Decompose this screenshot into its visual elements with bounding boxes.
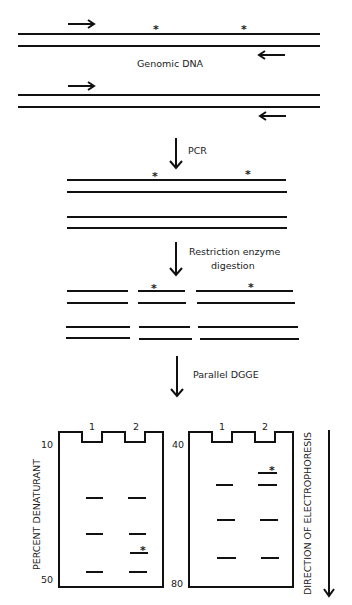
dgge-label: Parallel DGGE <box>193 370 259 380</box>
mutation-marker: * <box>248 282 254 293</box>
gel-left-bottom-percent: 50 <box>41 575 53 585</box>
gel-left-outline <box>59 432 163 587</box>
mutation-marker: * <box>153 24 159 35</box>
gel-left-top-percent: 10 <box>41 440 53 450</box>
gel-right-outline <box>189 432 293 587</box>
gel-right-bands <box>216 473 279 558</box>
mutation-marker: * <box>140 545 146 556</box>
diagram-canvas <box>0 0 352 605</box>
mutation-marker: * <box>151 283 157 294</box>
gel-right-lane-2-label: 2 <box>262 422 268 432</box>
gel-left-lane-2-label: 2 <box>133 422 139 432</box>
digestion-label-line2: digestion <box>211 261 255 271</box>
pcr-label: PCR <box>188 146 207 156</box>
digestion-down-arrow <box>170 242 182 275</box>
gel-right-lane-1-label: 1 <box>219 422 225 432</box>
mutation-marker: * <box>241 24 247 35</box>
electrophoresis-direction-arrow <box>324 430 334 596</box>
genomic-dna-label: Genomic DNA <box>137 59 203 69</box>
dgge-down-arrow <box>171 356 183 396</box>
primer-forward-arrow <box>68 82 94 90</box>
primer-reverse-arrow <box>260 112 286 120</box>
mutation-marker: * <box>269 465 275 476</box>
gel-left-bands <box>86 498 148 572</box>
mutation-marker: * <box>245 169 251 180</box>
gel-left-lane-1-label: 1 <box>89 422 95 432</box>
gel-right-bottom-percent: 80 <box>171 579 183 589</box>
gel-right-top-percent: 40 <box>172 440 184 450</box>
digested-fragments <box>66 291 299 339</box>
mutation-marker: * <box>152 171 158 182</box>
primer-reverse-arrow <box>259 51 285 59</box>
percent-denaturant-axis-label: PERCENT DENATURANT <box>32 459 42 570</box>
digestion-label-line1: Restriction enzyme <box>189 247 280 257</box>
direction-of-electrophoresis-label: DIRECTION OF ELECTROPHORESIS <box>303 432 313 595</box>
primer-forward-arrow <box>68 20 94 28</box>
pcr-down-arrow <box>170 138 182 168</box>
